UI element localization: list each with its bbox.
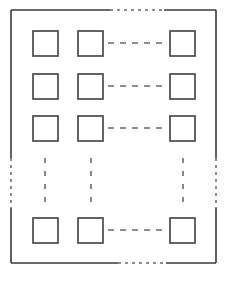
figure-canvas: [0, 0, 231, 282]
grid-cell-cell-r4c3: [170, 218, 195, 243]
grid-cell-cell-r1c2: [78, 31, 103, 56]
array-schematic-svg: [0, 0, 231, 282]
grid-cell-cell-r3c3: [170, 116, 195, 141]
grid-cell-cell-r2c2: [78, 74, 103, 99]
grid-cell-cell-r1c3: [170, 31, 195, 56]
grid-cell-cell-r4c1: [33, 218, 58, 243]
grid-cell-cell-r3c1: [33, 116, 58, 141]
grid-cell-cell-r1c1: [33, 31, 58, 56]
ellipsis-group: [45, 43, 183, 230]
grid-cell-cell-r4c2: [78, 218, 103, 243]
cell-group: [33, 31, 195, 243]
grid-cell-cell-r3c2: [78, 116, 103, 141]
grid-cell-cell-r2c1: [33, 74, 58, 99]
grid-cell-cell-r2c3: [170, 74, 195, 99]
